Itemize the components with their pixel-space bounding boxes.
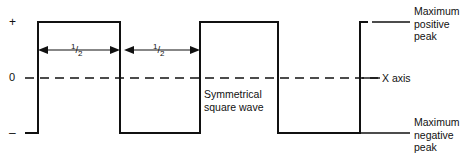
half-period-numerator-1: 1: [71, 42, 75, 51]
center-annotation: Symmetrical square wave: [204, 88, 264, 113]
half-period-label-1: 1/2: [71, 42, 83, 58]
square-wave-figure: + 0 – 1/2 1/2 Symmetrical square wave X …: [0, 0, 475, 155]
axis-label-negative: –: [9, 128, 16, 139]
half-period-denominator-2: 2: [160, 49, 164, 58]
maximum-negative-peak-callout: Maximum negative peak: [414, 116, 460, 154]
axis-label-zero: 0: [9, 72, 15, 83]
maximum-negative-peak-line-2: negative: [414, 129, 460, 142]
maximum-positive-peak-line-1: Maximum: [414, 5, 460, 18]
center-annotation-line-1: Symmetrical: [204, 88, 264, 101]
maximum-negative-peak-line-1: Maximum: [414, 116, 460, 129]
center-annotation-line-2: square wave: [204, 101, 264, 114]
maximum-negative-peak-line-3: peak: [414, 141, 460, 154]
maximum-positive-peak-callout: Maximum positive peak: [414, 5, 460, 43]
maximum-positive-peak-line-2: positive: [414, 18, 460, 31]
x-axis-callout-label: X axis: [382, 72, 411, 85]
half-period-numerator-2: 1: [153, 42, 157, 51]
axis-label-positive: +: [9, 17, 16, 28]
maximum-positive-peak-line-3: peak: [414, 30, 460, 43]
half-period-label-2: 1/2: [153, 42, 165, 58]
half-period-denominator-1: 2: [78, 49, 82, 58]
